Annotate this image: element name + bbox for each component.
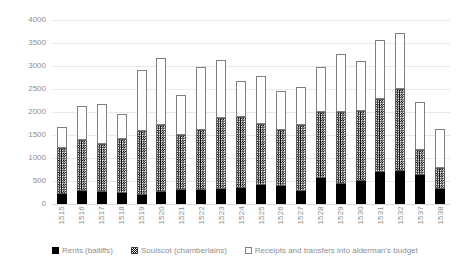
bar-column-1528[interactable]	[311, 20, 331, 204]
bar-segment-soulscot-1538[interactable]	[435, 168, 445, 189]
bar-column-1515[interactable]	[52, 20, 72, 204]
bar-segment-receipts-1517[interactable]	[97, 104, 107, 144]
bar-segment-receipts-1529[interactable]	[336, 54, 346, 112]
bar-segment-rents-1538[interactable]	[435, 189, 445, 204]
bar-column-1517[interactable]	[92, 20, 112, 204]
bar-column-1529[interactable]	[331, 20, 351, 204]
bar-segment-rents-1527[interactable]	[296, 191, 306, 204]
bar-segment-soulscot-1523[interactable]	[216, 118, 226, 190]
bar-segment-rents-1516[interactable]	[77, 191, 87, 204]
bar-segment-rents-1522[interactable]	[196, 190, 206, 204]
bar-segment-soulscot-1520[interactable]	[156, 125, 166, 192]
bar-segment-receipts-1518[interactable]	[117, 114, 127, 139]
bar-segment-rents-1517[interactable]	[97, 192, 107, 204]
bar-segment-rents-1523[interactable]	[216, 189, 226, 204]
bar-segment-rents-1529[interactable]	[336, 184, 346, 204]
bar-column-1524[interactable]	[231, 20, 251, 204]
bar-column-1516[interactable]	[72, 20, 92, 204]
bar-segment-soulscot-1525[interactable]	[256, 124, 266, 185]
bar-column-1520[interactable]	[152, 20, 172, 204]
bar-segment-receipts-1532[interactable]	[395, 33, 405, 89]
bar-segment-soulscot-1524[interactable]	[236, 117, 246, 188]
bar-segment-soulscot-1530[interactable]	[356, 111, 366, 182]
bar-segment-soulscot-1527[interactable]	[296, 125, 306, 191]
bar-segment-soulscot-1517[interactable]	[97, 144, 107, 191]
hatched-swatch	[131, 247, 138, 254]
y-tick-label-1500: 1500	[4, 131, 46, 139]
bar-segment-rents-1515[interactable]	[57, 194, 67, 204]
bar-segment-receipts-1526[interactable]	[276, 91, 286, 130]
bar-segment-rents-1526[interactable]	[276, 186, 286, 204]
bar-segment-soulscot-1516[interactable]	[77, 140, 87, 191]
bar-column-1538[interactable]	[430, 20, 450, 204]
bar-segment-soulscot-1519[interactable]	[137, 131, 147, 195]
bar-segment-receipts-1521[interactable]	[176, 95, 186, 135]
x-tick-label-1526: 1526	[276, 206, 285, 225]
x-label-col: 1515	[52, 206, 72, 238]
bar-segment-rents-1518[interactable]	[117, 193, 127, 204]
legend-item-rents[interactable]: Rents (bailiffs)	[52, 246, 113, 255]
legend-item-soulscot[interactable]: Soulscot (chamberlains)	[131, 246, 227, 255]
bar-segment-receipts-1525[interactable]	[256, 76, 266, 124]
x-tick-label-1517: 1517	[97, 206, 106, 225]
bar-segment-rents-1530[interactable]	[356, 181, 366, 204]
bar-segment-soulscot-1528[interactable]	[316, 112, 326, 178]
bar-segment-rents-1537[interactable]	[415, 175, 425, 204]
bar-stack	[236, 81, 246, 204]
bar-segment-receipts-1527[interactable]	[296, 87, 306, 126]
bar-column-1522[interactable]	[191, 20, 211, 204]
x-label-col: 1525	[251, 206, 271, 238]
x-label-col: 1523	[211, 206, 231, 238]
bar-segment-soulscot-1522[interactable]	[196, 130, 206, 190]
bar-segment-receipts-1523[interactable]	[216, 60, 226, 118]
x-axis-category-labels: 1515151615171518151915201521152215231524…	[52, 206, 450, 238]
bar-segment-rents-1528[interactable]	[316, 178, 326, 204]
bar-column-1523[interactable]	[211, 20, 231, 204]
bar-segment-soulscot-1529[interactable]	[336, 112, 346, 184]
x-tick-label-1524: 1524	[237, 206, 246, 225]
bar-column-1526[interactable]	[271, 20, 291, 204]
bar-column-1531[interactable]	[371, 20, 391, 204]
bar-segment-receipts-1531[interactable]	[375, 40, 385, 99]
x-tick-label-1515: 1515	[57, 206, 66, 225]
bar-segment-rents-1520[interactable]	[156, 192, 166, 204]
bar-segment-soulscot-1526[interactable]	[276, 130, 286, 186]
bar-column-1525[interactable]	[251, 20, 271, 204]
legend-item-receipts[interactable]: Receipts and transfers into alderman's b…	[245, 246, 418, 255]
bar-segment-rents-1531[interactable]	[375, 172, 385, 204]
bar-column-1518[interactable]	[112, 20, 132, 204]
bar-segment-receipts-1528[interactable]	[316, 67, 326, 112]
bar-segment-rents-1521[interactable]	[176, 190, 186, 204]
bar-segment-rents-1524[interactable]	[236, 188, 246, 204]
bar-column-1532[interactable]	[390, 20, 410, 204]
bar-stack	[117, 114, 127, 204]
bar-segment-rents-1525[interactable]	[256, 185, 266, 204]
bar-segment-receipts-1538[interactable]	[435, 129, 445, 168]
bar-stack	[296, 87, 306, 204]
bar-segment-receipts-1537[interactable]	[415, 102, 425, 150]
bar-segment-receipts-1530[interactable]	[356, 61, 366, 111]
bar-segment-receipts-1522[interactable]	[196, 67, 206, 130]
bar-segment-soulscot-1531[interactable]	[375, 99, 385, 172]
bar-column-1537[interactable]	[410, 20, 430, 204]
bar-segment-receipts-1519[interactable]	[137, 70, 147, 130]
bar-segment-soulscot-1521[interactable]	[176, 135, 186, 190]
bar-column-1527[interactable]	[291, 20, 311, 204]
bar-stack	[395, 33, 405, 204]
bar-segment-rents-1532[interactable]	[395, 171, 405, 204]
bar-column-1519[interactable]	[132, 20, 152, 204]
bar-segment-receipts-1520[interactable]	[156, 58, 166, 124]
bar-segment-soulscot-1518[interactable]	[117, 139, 127, 194]
x-tick-label-1531: 1531	[376, 206, 385, 225]
bar-segment-receipts-1524[interactable]	[236, 81, 246, 117]
bar-segment-soulscot-1532[interactable]	[395, 89, 405, 170]
bar-column-1530[interactable]	[351, 20, 371, 204]
bar-column-1521[interactable]	[171, 20, 191, 204]
bar-segment-receipts-1515[interactable]	[57, 127, 67, 148]
legend-label: Soulscot (chamberlains)	[141, 246, 227, 255]
y-tick-label-2500: 2500	[4, 85, 46, 93]
bar-segment-receipts-1516[interactable]	[77, 106, 87, 141]
bar-segment-soulscot-1537[interactable]	[415, 150, 425, 175]
bar-segment-soulscot-1515[interactable]	[57, 148, 67, 194]
bar-segment-rents-1519[interactable]	[137, 195, 147, 204]
